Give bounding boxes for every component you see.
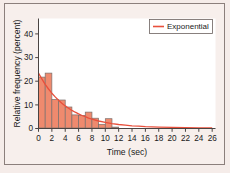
x-tick-label: 0 <box>36 134 41 143</box>
y-tick-label: 0 <box>28 124 33 133</box>
histogram-bar <box>99 124 106 128</box>
x-tick-label: 26 <box>208 134 218 143</box>
y-tick-label: 30 <box>24 53 34 62</box>
y-tick-label: 10 <box>24 101 34 110</box>
x-tick-label: 10 <box>101 134 111 143</box>
y-axis-tick-labels: 0 10 20 30 40 <box>24 30 34 134</box>
histogram-bar <box>72 115 79 128</box>
y-tick-label: 40 <box>24 30 34 39</box>
x-tick-label: 8 <box>90 134 95 143</box>
y-tick-label: 20 <box>24 77 34 86</box>
x-tick-label: 16 <box>141 134 151 143</box>
chart-legend: Exponential <box>150 20 213 34</box>
histogram-bar <box>79 115 86 128</box>
x-tick-label: 20 <box>168 134 178 143</box>
y-axis-title: Relative frequency (percent) <box>12 19 22 127</box>
histogram-bar <box>52 100 59 129</box>
figure-container: 0 10 20 30 40 0 2 4 6 <box>0 0 230 173</box>
histogram-bar <box>45 73 52 128</box>
x-tick-label: 18 <box>154 134 164 143</box>
histogram-bar <box>85 112 92 128</box>
histogram-bar <box>59 100 66 128</box>
legend-label-exponential: Exponential <box>167 22 209 31</box>
histogram-bar <box>39 77 46 128</box>
x-axis-title: Time (sec) <box>107 147 147 157</box>
x-tick-label: 12 <box>114 134 124 143</box>
x-tick-label: 2 <box>50 134 55 143</box>
x-tick-label: 4 <box>63 134 68 143</box>
exponential-histogram-chart: 0 10 20 30 40 0 2 4 6 <box>0 0 230 173</box>
x-axis-tick-labels: 0 2 4 6 8 10 12 14 16 18 20 22 24 26 <box>36 134 217 143</box>
x-tick-label: 14 <box>127 134 137 143</box>
x-tick-label: 22 <box>181 134 191 143</box>
histogram-bar <box>112 127 119 128</box>
x-tick-label: 6 <box>76 134 81 143</box>
x-tick-label: 24 <box>194 134 204 143</box>
